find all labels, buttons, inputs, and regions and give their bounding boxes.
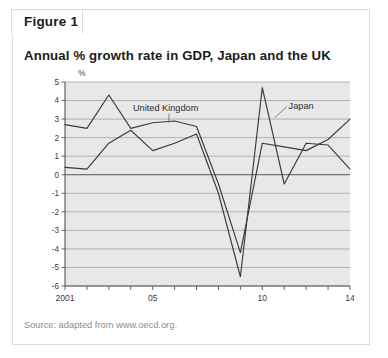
y-tick-label: 0 [54,171,59,180]
y-tick-label: -4 [52,245,60,254]
chart-plot-area: % 543210-1-2-3-4-5-62001051014United Kin… [24,68,354,316]
source-note: Source: adapted from www.oecd.org. [24,320,177,330]
x-tick-label: 2001 [55,293,74,303]
y-axis-unit-label: % [78,68,86,78]
y-tick-label: -1 [52,189,60,198]
y-tick-label: -3 [52,226,60,235]
y-tick-label: -5 [52,263,60,272]
chart-title: Annual % growth rate in GDP, Japan and t… [24,48,331,63]
x-tick-label: 05 [148,293,158,303]
series-label-united-kingdom: United Kingdom [133,103,199,113]
y-tick-label: 2 [54,134,59,143]
series-label-japan: Japan [289,101,314,111]
y-tick-label: 4 [54,96,59,105]
y-tick-label: 1 [54,152,59,161]
x-tick-label: 14 [345,293,354,303]
y-tick-label: -2 [52,208,60,217]
y-tick-label: 5 [54,78,59,87]
line-chart: 543210-1-2-3-4-5-62001051014United Kingd… [24,68,354,316]
figure-tab-label: Figure 1 [24,14,78,29]
x-tick-label: 10 [258,293,268,303]
y-tick-label: -6 [52,282,60,291]
y-tick-label: 3 [54,115,59,124]
